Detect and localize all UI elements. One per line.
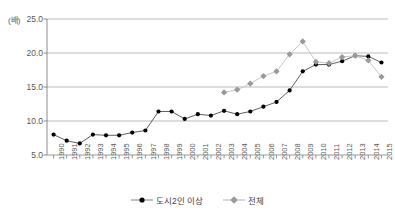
plot-area xyxy=(0,0,395,220)
data-point xyxy=(260,73,266,79)
legend-label-series-1: 도시2인 이상 xyxy=(156,194,203,206)
data-point xyxy=(326,60,332,66)
data-point xyxy=(91,133,95,137)
data-point xyxy=(301,69,305,73)
data-point xyxy=(209,113,213,117)
data-point xyxy=(234,87,240,93)
data-point xyxy=(104,133,108,137)
legend-label-series-2: 전체 xyxy=(248,194,264,206)
data-point xyxy=(130,130,134,134)
data-point xyxy=(274,100,278,104)
legend-marker-circle-icon xyxy=(131,195,153,205)
chart-legend: 도시2인 이상 전체 xyxy=(0,194,395,206)
data-point xyxy=(222,109,226,113)
data-point xyxy=(313,59,319,65)
data-point xyxy=(143,128,147,132)
data-point xyxy=(183,117,187,121)
data-point xyxy=(117,133,121,137)
data-point xyxy=(339,54,345,60)
data-point xyxy=(248,109,252,113)
data-point xyxy=(196,112,200,116)
data-point xyxy=(51,133,55,137)
legend-marker-diamond-icon xyxy=(223,195,245,205)
data-point xyxy=(288,88,292,92)
data-point xyxy=(78,141,82,145)
data-point xyxy=(156,109,160,113)
line-chart: (배) 5.010.015.020.025.0 1990199119921993… xyxy=(0,0,395,220)
data-point xyxy=(221,89,227,95)
data-point xyxy=(235,112,239,116)
data-point xyxy=(65,139,69,143)
data-point xyxy=(170,109,174,113)
data-point xyxy=(352,53,358,59)
series-line-2 xyxy=(224,41,381,92)
legend-item-series-1[interactable]: 도시2인 이상 xyxy=(131,194,203,206)
data-point xyxy=(247,80,253,86)
series-line-1 xyxy=(54,56,382,144)
data-point xyxy=(379,60,383,64)
data-point xyxy=(261,105,265,109)
legend-item-series-2[interactable]: 전체 xyxy=(223,194,264,206)
